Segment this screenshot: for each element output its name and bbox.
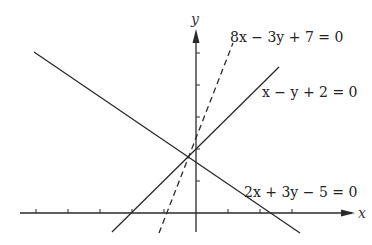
y-axis-label: y [190,11,200,27]
x-axis-arrow-icon [341,210,355,217]
equation-label-8x-3y-7: 8x − 3y + 7 = 0 [230,29,343,45]
coordinate-diagram: x y 8x − 3y + 7 = 0 x − y + 2 = 0 2x + 3… [0,0,372,245]
equation-label-2x-3y-5: 2x + 3y − 5 = 0 [244,184,357,200]
equation-label-x-y-2: x − y + 2 = 0 [262,84,358,100]
y-axis-arrow-icon [193,29,200,43]
line-2x-3y-5 [34,52,300,233]
x-axis-label: x [358,205,366,221]
